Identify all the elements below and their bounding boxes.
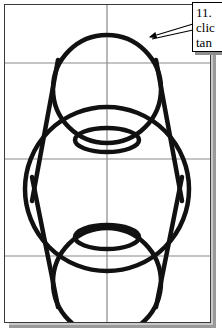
grid-lines [5,5,210,322]
callout-text: 11. clic tan [193,3,222,50]
callout-line-2: clic [193,20,222,35]
instruction-callout[interactable]: 11. clic tan [192,2,222,52]
drawing-sheet[interactable] [4,4,211,323]
screenshot-root: 11. clic tan [0,0,222,333]
callout-line-3: tan [193,35,222,50]
drawing-canvas[interactable] [5,5,210,322]
callout-line-1: 11. [193,5,222,20]
